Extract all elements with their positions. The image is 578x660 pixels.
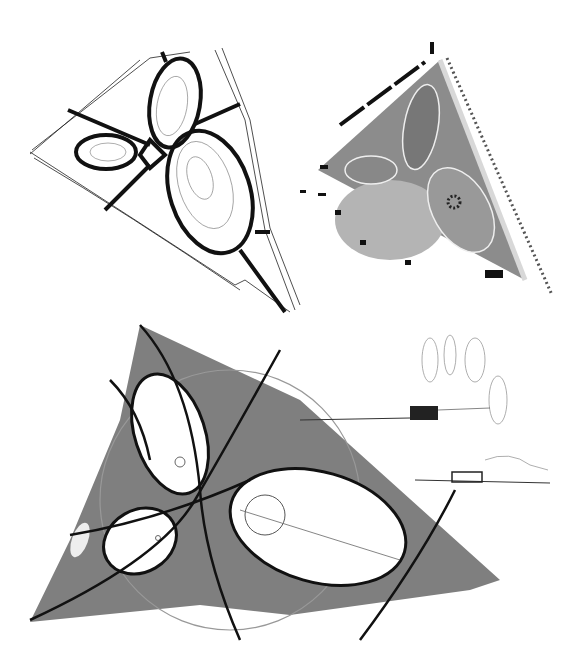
section-sketches-right (0, 0, 578, 660)
sketch-sheet (0, 0, 578, 660)
